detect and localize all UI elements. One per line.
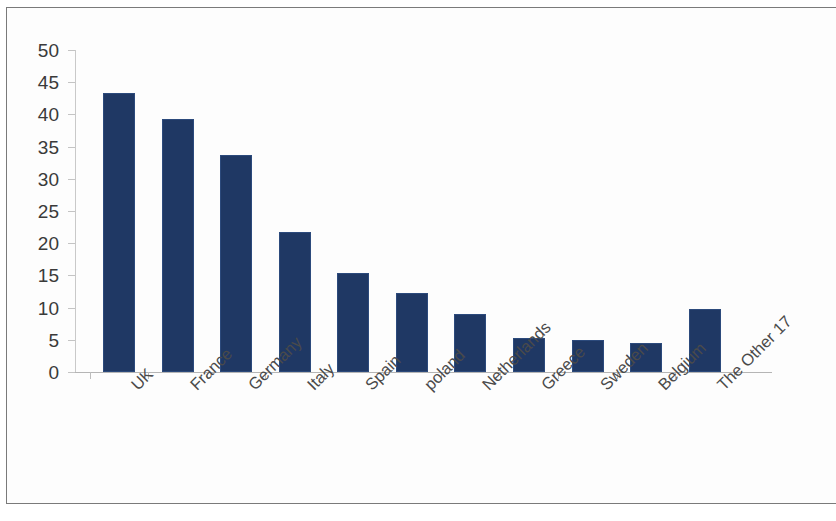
- x-axis-label: Italy: [303, 380, 304, 381]
- y-axis-tick-label: 5: [48, 330, 59, 352]
- y-axis-tick: 5: [68, 340, 75, 341]
- y-axis-tick-label: 50: [38, 40, 59, 62]
- y-axis-tick: 0: [68, 372, 75, 373]
- x-axis-label: Spain: [361, 380, 362, 381]
- y-axis-tick-label: 10: [38, 298, 59, 320]
- x-axis-label: Germany: [244, 380, 245, 381]
- x-axis-label: France: [186, 380, 187, 381]
- y-axis-tick-label: 20: [38, 233, 59, 255]
- y-axis-tick: 25: [68, 211, 75, 212]
- y-axis-tick: 10: [68, 308, 75, 309]
- x-axis-tick: [90, 372, 91, 379]
- x-axis-label: Belgium: [654, 380, 655, 381]
- y-axis-tick-label: 15: [38, 265, 59, 287]
- y-axis-tick: 40: [68, 114, 75, 115]
- y-axis-tick-label: 40: [38, 104, 59, 126]
- y-axis-tick: 50: [68, 50, 75, 51]
- bar: [337, 273, 369, 372]
- y-axis-tick-label: 35: [38, 137, 59, 159]
- y-axis-tick-label: 30: [38, 169, 59, 191]
- y-axis-tick: 20: [68, 243, 75, 244]
- x-axis-label: UK: [127, 380, 128, 381]
- bar: [103, 93, 135, 372]
- y-axis-tick: 30: [68, 179, 75, 180]
- bar: [220, 155, 252, 372]
- x-axis-label: The Other 17: [713, 380, 714, 381]
- y-axis-tick-label: 25: [38, 201, 59, 223]
- x-axis-label: Greece: [537, 380, 538, 381]
- y-axis-tick-label: 45: [38, 72, 59, 94]
- plot-area: 05101520253035404550: [75, 50, 772, 372]
- bar: [162, 119, 194, 372]
- x-axis-label: Sweden: [596, 380, 597, 381]
- y-axis-tick-label: 0: [48, 362, 59, 384]
- x-axis-label: poland: [420, 380, 421, 381]
- y-axis-tick: 45: [68, 82, 75, 83]
- y-axis-tick: 35: [68, 147, 75, 148]
- y-axis-tick: 15: [68, 275, 75, 276]
- x-axis-label: Netherlands: [478, 380, 479, 381]
